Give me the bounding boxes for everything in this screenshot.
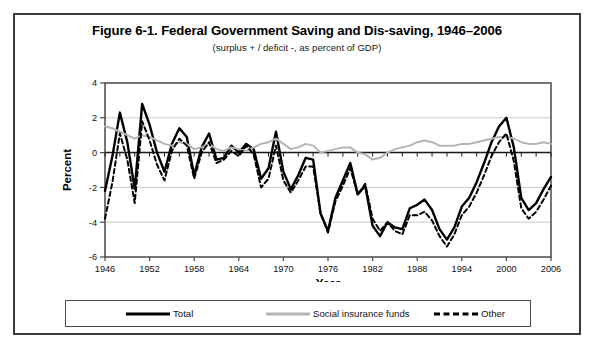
- x-tick-label: 1994: [452, 264, 472, 274]
- legend-swatch-icon: [266, 309, 310, 319]
- title-block: Figure 6-1. Federal Government Saving an…: [15, 23, 579, 53]
- y-tick-label: -4: [89, 218, 97, 228]
- x-axis-tick-labels: 1946195219581964197019761982198819942000…: [95, 264, 561, 274]
- plot-area: 420-2-4-6 194619521958196419701976198219…: [15, 57, 583, 282]
- legend-swatch-icon: [434, 309, 478, 319]
- legend-item-label: Other: [481, 308, 505, 319]
- legend-item-label: Social insurance funds: [313, 308, 410, 319]
- x-tick-label: 2000: [496, 264, 516, 274]
- legend-item: Other: [434, 301, 505, 326]
- y-tick-label: 4: [92, 78, 97, 88]
- y-axis-ticks: [100, 83, 105, 257]
- x-tick-label: 1976: [318, 264, 338, 274]
- legend-items: TotalSocial insurance fundsOther: [66, 301, 530, 326]
- y-tick-label: -6: [89, 252, 97, 262]
- legend-item: Social insurance funds: [266, 301, 410, 326]
- series-line-total: [105, 104, 551, 240]
- page-title: Figure 6-1. Federal Government Saving an…: [15, 23, 579, 38]
- x-tick-label: 1982: [362, 264, 382, 274]
- legend-item-label: Total: [173, 308, 193, 319]
- y-tick-label: 2: [92, 113, 97, 123]
- y-axis-title: Percent: [61, 149, 73, 191]
- figure-frame: Figure 6-1. Federal Government Saving an…: [13, 13, 581, 335]
- chart-legend: TotalSocial insurance fundsOther: [65, 300, 531, 327]
- data-series-layer: [105, 104, 551, 247]
- x-tick-label: 2006: [541, 264, 561, 274]
- legend-swatch-icon: [126, 309, 170, 319]
- x-tick-label: 1958: [184, 264, 204, 274]
- y-tick-label: 0: [92, 148, 97, 158]
- x-tick-label: 1970: [273, 264, 293, 274]
- x-tick-label: 1988: [407, 264, 427, 274]
- x-axis-title: Year: [316, 277, 341, 282]
- gridlines: [105, 118, 551, 222]
- chart-svg: 420-2-4-6 194619521958196419701976198219…: [15, 57, 583, 282]
- y-axis-tick-labels: 420-2-4-6: [89, 78, 97, 262]
- axis-titles: YearPercent: [61, 149, 341, 282]
- y-tick-label: -2: [89, 183, 97, 193]
- x-tick-label: 1946: [95, 264, 115, 274]
- x-tick-label: 1964: [229, 264, 249, 274]
- legend-item: Total: [126, 301, 193, 326]
- x-axis-ticks: [105, 153, 551, 261]
- chart-subtitle: (surplus + / deficit -, as percent of GD…: [15, 42, 579, 53]
- x-tick-label: 1952: [139, 264, 159, 274]
